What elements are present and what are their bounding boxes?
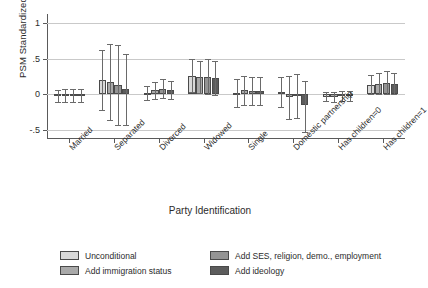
error-bar-cap bbox=[152, 99, 158, 100]
error-bar-cap bbox=[234, 79, 240, 80]
error-bar bbox=[171, 81, 172, 99]
error-bar-cap bbox=[205, 94, 211, 95]
error-bar-cap bbox=[55, 102, 61, 103]
error-bar-cap bbox=[144, 86, 150, 87]
error-bar-cap bbox=[197, 93, 203, 94]
error-bar-cap bbox=[70, 89, 76, 90]
error-bar-cap bbox=[189, 92, 195, 93]
error-bar-cap bbox=[78, 89, 84, 90]
error-bar bbox=[297, 74, 298, 118]
error-bar-cap bbox=[160, 98, 166, 99]
error-bar-cap bbox=[278, 77, 284, 78]
legend-swatch bbox=[60, 266, 79, 275]
error-bar-cap bbox=[152, 82, 158, 83]
error-bar-cap bbox=[302, 81, 308, 82]
bar-group bbox=[47, 14, 92, 139]
error-bar-cap bbox=[99, 110, 105, 111]
error-bar-cap bbox=[249, 77, 255, 78]
error-bar bbox=[215, 61, 216, 95]
error-bar-cap bbox=[368, 94, 374, 95]
error-bar-cap bbox=[391, 73, 397, 74]
error-bar-cap bbox=[384, 94, 390, 95]
error-bar bbox=[65, 89, 66, 102]
error-bar bbox=[394, 73, 395, 95]
error-bar-cap bbox=[78, 102, 84, 103]
error-bar-cap bbox=[70, 102, 76, 103]
error-bar bbox=[289, 76, 290, 119]
error-bar bbox=[163, 79, 164, 98]
bar-group bbox=[271, 14, 316, 139]
error-bar-cap bbox=[376, 73, 382, 74]
error-bar-cap bbox=[384, 71, 390, 72]
error-bar-cap bbox=[241, 76, 247, 77]
error-bar-cap bbox=[123, 125, 129, 126]
error-bar bbox=[126, 54, 127, 125]
legend-swatch bbox=[210, 251, 229, 260]
error-bar-cap bbox=[249, 105, 255, 106]
error-bar bbox=[379, 73, 380, 94]
error-bar-cap bbox=[286, 76, 292, 77]
error-bar bbox=[326, 92, 327, 101]
error-bar bbox=[237, 79, 238, 108]
legend-item: Add ideology bbox=[210, 266, 410, 276]
error-bar bbox=[118, 45, 119, 125]
error-bar-cap bbox=[123, 54, 129, 55]
legend-label: Unconditional bbox=[85, 251, 137, 261]
legend-label: Add ideology bbox=[235, 266, 284, 276]
error-bar bbox=[371, 75, 372, 94]
error-bar-cap bbox=[115, 125, 121, 126]
error-bar-cap bbox=[323, 101, 329, 102]
error-bar-cap bbox=[62, 89, 68, 90]
error-bar-cap bbox=[144, 100, 150, 101]
error-bar bbox=[81, 89, 82, 102]
error-bar-cap bbox=[107, 44, 113, 45]
y-axis-tick-label: -.5 bbox=[29, 125, 40, 135]
legend-item: Unconditional bbox=[60, 251, 210, 261]
error-bar bbox=[244, 76, 245, 105]
error-bar-cap bbox=[241, 105, 247, 106]
error-bar-cap bbox=[160, 79, 166, 80]
x-axis-title: Party Identification bbox=[0, 205, 420, 216]
error-bar-cap bbox=[368, 75, 374, 76]
error-bar bbox=[155, 82, 156, 99]
error-bar-cap bbox=[286, 119, 292, 120]
error-bar bbox=[58, 90, 59, 101]
error-bar-cap bbox=[212, 95, 218, 96]
error-bar bbox=[73, 89, 74, 102]
error-bar bbox=[281, 77, 282, 106]
error-bar bbox=[305, 81, 306, 132]
bar-group bbox=[92, 14, 137, 139]
bar-group bbox=[181, 14, 226, 139]
error-bar bbox=[200, 61, 201, 93]
error-bar-cap bbox=[197, 61, 203, 62]
y-axis-tick-label: 0 bbox=[35, 89, 40, 99]
error-bar-cap bbox=[331, 92, 337, 93]
error-bar-cap bbox=[294, 74, 300, 75]
error-bar-cap bbox=[294, 118, 300, 119]
error-bar-cap bbox=[257, 105, 263, 106]
error-bar bbox=[102, 50, 103, 110]
legend-item: Add immigration status bbox=[60, 266, 210, 276]
error-bar-cap bbox=[107, 120, 113, 121]
error-bar bbox=[252, 77, 253, 105]
y-axis-title: PSM Standardized Score bbox=[17, 0, 28, 94]
legend-label: Add SES, religion, demo., employment bbox=[235, 251, 381, 261]
chart-legend: UnconditionalAdd SES, religion, demo., e… bbox=[60, 248, 410, 278]
legend-swatch bbox=[210, 266, 229, 275]
error-bar-cap bbox=[115, 45, 121, 46]
error-bar bbox=[192, 59, 193, 91]
error-bar-cap bbox=[212, 61, 218, 62]
legend-item: Add SES, religion, demo., employment bbox=[210, 251, 410, 261]
error-bar bbox=[387, 71, 388, 93]
error-bar bbox=[110, 44, 111, 120]
error-bar-cap bbox=[62, 102, 68, 103]
error-bar-cap bbox=[55, 90, 61, 91]
error-bar-cap bbox=[189, 59, 195, 60]
error-bar-cap bbox=[168, 81, 174, 82]
error-bar-cap bbox=[168, 99, 174, 100]
error-bar-cap bbox=[376, 94, 382, 95]
legend-label: Add immigration status bbox=[85, 266, 171, 276]
y-axis-tick-label: .5 bbox=[32, 54, 40, 64]
y-axis-tick-label: 1 bbox=[35, 18, 40, 28]
